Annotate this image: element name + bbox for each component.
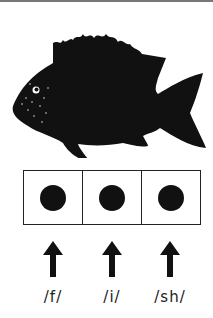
phoneme-label-2: /i/ <box>92 288 132 306</box>
fish-icon <box>8 18 206 158</box>
arrow-up-icon <box>43 241 63 277</box>
phoneme-label-1: /f/ <box>33 288 73 306</box>
arrow-up-icon <box>102 241 122 277</box>
sound-box-2[interactable] <box>83 171 142 224</box>
top-border-line <box>0 0 213 2</box>
arrow-up-icon <box>160 241 180 277</box>
phoneme-label-3: /sh/ <box>150 288 190 306</box>
sound-boxes <box>23 170 201 225</box>
sound-token-3[interactable] <box>158 185 184 211</box>
sound-token-1[interactable] <box>40 185 66 211</box>
sound-token-2[interactable] <box>99 185 125 211</box>
sound-box-3[interactable] <box>142 171 200 224</box>
sound-box-1[interactable] <box>24 171 83 224</box>
